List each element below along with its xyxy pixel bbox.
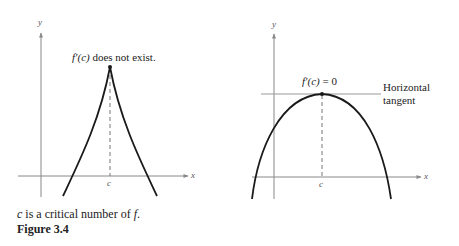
left-cusp-curve-right: [110, 67, 157, 196]
figure-label: Figure 3.4: [17, 223, 69, 235]
right-max-point: [320, 92, 324, 96]
left-x-axis-label: x: [191, 171, 195, 180]
left-annotation-fn: f′(c): [72, 51, 90, 63]
horizontal-tangent-label-line1: Horizontal: [383, 82, 430, 93]
left-c-label: c: [107, 179, 111, 188]
left-cusp-point: [108, 65, 112, 69]
caption-middle: is a critical number of: [22, 207, 133, 221]
right-c-label: c: [319, 180, 323, 189]
right-graph: [252, 34, 421, 199]
caption-period: .: [137, 207, 140, 221]
left-y-axis-label: y: [38, 18, 42, 27]
caption-text: c is a critical number of f.: [17, 208, 140, 220]
right-annotation-fn: f′(c): [302, 75, 320, 87]
right-y-axis-label: y: [272, 20, 276, 29]
left-cusp-curve-left: [63, 67, 110, 196]
horizontal-tangent-label-line2: tangent: [383, 95, 415, 106]
left-annotation-text: does not exist.: [90, 51, 156, 63]
right-annotation-text: = 0: [320, 75, 337, 87]
right-annotation: f′(c) = 0: [302, 76, 337, 87]
right-x-axis-label: x: [424, 172, 428, 181]
left-annotation: f′(c) does not exist.: [72, 52, 156, 63]
